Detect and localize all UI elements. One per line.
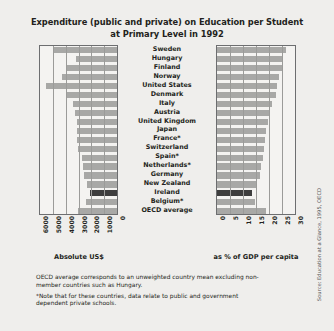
footnote-oecd-average: OECD average corresponds to an unweighte… (36, 274, 261, 289)
category-label: France* (119, 134, 215, 143)
gridline (104, 46, 105, 214)
axis-tick-label: 10 (245, 216, 252, 225)
gridline (269, 46, 270, 214)
bar (217, 199, 255, 205)
axis-tick-label: 25 (284, 216, 291, 225)
axis-tick-label: 15 (258, 216, 265, 225)
gridline (230, 46, 231, 214)
bar (217, 128, 266, 134)
x-axis-ticks-absolute-usd: 6000500040003000200010000 (39, 216, 118, 246)
bar (217, 74, 279, 80)
category-label: Switzerland (119, 143, 215, 152)
bar (217, 190, 252, 196)
x-axis-title-gdp-percent: as % of GDP per capita (196, 253, 316, 261)
category-label: Belgium* (119, 197, 215, 206)
category-label: Germany (119, 170, 215, 179)
category-label: Finland (119, 63, 215, 72)
category-label: Japan (119, 125, 215, 134)
category-label: Austria (119, 108, 215, 117)
category-label: Denmark (119, 90, 215, 99)
gridline (91, 46, 92, 214)
bar (62, 74, 117, 80)
axis-tick-label: 0 (219, 216, 226, 220)
chart-figure: Expenditure (public and private) on Educ… (0, 0, 334, 331)
category-label: Sweden (119, 45, 215, 54)
axis-tick-label: 5 (232, 216, 239, 220)
axis-tick-label: 30 (297, 216, 304, 225)
title-line-1: Expenditure (public and private) on Educ… (31, 17, 303, 27)
footnotes: OECD average corresponds to an unweighte… (36, 274, 261, 308)
bar (217, 83, 277, 89)
bar (83, 163, 117, 169)
category-label: United States (119, 81, 215, 90)
bar (77, 128, 117, 134)
gridline (282, 46, 283, 214)
category-label: Italy (119, 99, 215, 108)
source-credit: Source: Education at a Glance, 1995, OEC… (316, 188, 322, 301)
gridline (79, 46, 80, 214)
title-line-2: at Primary Level in 1992 (16, 29, 318, 41)
category-label: Spain* (119, 152, 215, 161)
axis-tick-label: 5000 (55, 216, 62, 233)
bar (76, 56, 117, 62)
category-labels: SwedenHungaryFinlandNorwayUnited StatesD… (119, 45, 215, 215)
bar (77, 137, 117, 143)
axis-tick-label: 2000 (93, 216, 100, 233)
bar (217, 65, 282, 71)
bar (54, 47, 117, 53)
bar (217, 137, 265, 143)
gridline (256, 46, 257, 214)
gridline (66, 46, 67, 214)
bar (78, 208, 117, 214)
bar (77, 119, 117, 125)
bar (73, 101, 117, 107)
category-label: Norway (119, 72, 215, 81)
x-axis-title-absolute-usd: Absolute US$ (20, 253, 138, 261)
axis-tick-label: 3000 (81, 216, 88, 233)
footnote-asterisk: *Note that for these countries, data rel… (36, 293, 261, 308)
bar (84, 172, 117, 178)
category-label: OECD average (119, 206, 215, 215)
category-label: United Kingdom (119, 117, 215, 126)
x-axis-ticks-gdp-percent: 051015202530 (216, 216, 296, 246)
chart-panel-gdp-percent (216, 45, 296, 215)
axis-tick-label: 1000 (106, 216, 113, 233)
bar (217, 208, 266, 214)
bar (82, 155, 117, 161)
bar (217, 47, 286, 53)
bar (46, 83, 117, 89)
bar (217, 163, 261, 169)
category-label: Ireland (119, 188, 215, 197)
category-label: Netherlands* (119, 161, 215, 170)
bar (217, 172, 260, 178)
chart-panel-absolute-usd (39, 45, 118, 215)
bar (217, 181, 257, 187)
gridline (53, 46, 54, 214)
axis-tick-label: 0 (119, 216, 126, 220)
bar (78, 146, 117, 152)
axis-tick-label: 6000 (42, 216, 49, 233)
bar (75, 110, 117, 116)
axis-tick-label: 20 (271, 216, 278, 225)
bar (217, 92, 276, 98)
gridline (243, 46, 244, 214)
category-label: Hungary (119, 54, 215, 63)
page-title: Expenditure (public and private) on Educ… (16, 17, 318, 40)
bar (217, 56, 283, 62)
category-label: New Zealand (119, 179, 215, 188)
bar (217, 101, 272, 107)
axis-tick-label: 4000 (68, 216, 75, 233)
